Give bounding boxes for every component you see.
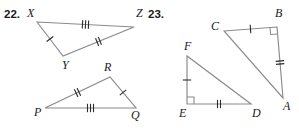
triangle-abc-right-angle-b [270,28,278,35]
vertex-label-d: D [251,106,261,120]
vertex-label-b: B [275,6,283,20]
problem-number-22: 22. [4,8,20,20]
problem-number-23: 23. [148,8,164,20]
vertex-label-e: E [178,106,187,120]
vertex-label-q: Q [131,108,140,122]
figures-group: 22.23.XZYPQRCBAFED [4,6,291,122]
vertex-label-r: R [103,60,112,74]
tick-mark [47,36,54,41]
vertex-label-c: C [211,19,220,33]
triangle-def-right-angle-e [187,97,194,104]
tick-mark [276,64,284,65]
triangle-pqr: PQR [33,60,140,122]
vertex-label-p: P [33,105,42,119]
vertex-label-z: Z [136,6,143,20]
triangle-abc-outline [224,27,283,98]
triangle-abc-ticks-cb [250,25,251,33]
vertex-label-a: A [282,99,291,113]
tick-mark [250,25,251,33]
triangle-xyz-ticks-xy [47,36,54,41]
vertex-label-y: Y [62,58,70,72]
triangle-def: FED [178,39,261,120]
triangle-xyz: XZY [26,6,143,72]
triangle-abc: CBA [211,6,291,113]
geometry-figure-canvas: 22.23.XZYPQRCBAFED [0,0,299,139]
vertex-label-x: X [26,6,35,20]
tick-mark [276,61,284,62]
triangle-def-outline [187,56,251,104]
vertex-label-f: F [183,39,192,53]
